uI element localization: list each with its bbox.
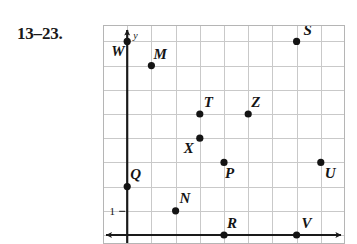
point-label-u: U	[325, 165, 337, 181]
point-label-r: R	[226, 215, 237, 231]
point-label-n: N	[179, 190, 192, 206]
data-point-r	[220, 231, 227, 238]
exercise-number-label: 13–23.	[17, 24, 63, 44]
scatter-plot-svg: WSMTZXPUQNRV y1	[103, 25, 345, 244]
point-label-z: Z	[250, 94, 260, 110]
data-point-n	[172, 207, 179, 214]
data-point-u	[317, 159, 324, 166]
data-point-s	[293, 38, 300, 45]
data-point-x	[196, 135, 203, 142]
point-label-s: S	[304, 25, 312, 38]
data-point-w	[124, 38, 131, 45]
point-label-w: W	[111, 43, 126, 59]
data-point-t	[196, 110, 203, 117]
point-label-q: Q	[130, 166, 141, 182]
y-axis-label: y	[132, 30, 138, 41]
data-point-z	[245, 110, 252, 117]
point-label-p: P	[225, 165, 235, 181]
data-point-q	[124, 183, 131, 190]
data-point-v	[293, 231, 300, 238]
data-point-m	[148, 62, 155, 69]
coordinate-grid-figure: 13–23. WSMTZXPUQNRV y1	[0, 0, 357, 244]
point-label-x: X	[183, 140, 195, 156]
plot-area: WSMTZXPUQNRV y1	[103, 25, 345, 244]
point-label-t: T	[204, 94, 214, 110]
y-tick-label-1: 1	[109, 205, 115, 217]
point-label-m: M	[152, 46, 167, 62]
